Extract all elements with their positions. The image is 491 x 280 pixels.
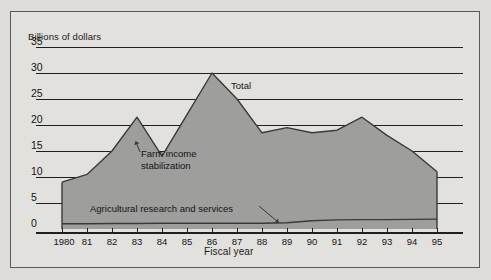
y-tick-label: 25	[31, 87, 43, 99]
y-tick-label: 30	[31, 61, 43, 73]
y-tick-label: 0	[31, 217, 37, 229]
chart-screenshot: Billions of dollars 05101520253035 19808…	[0, 0, 491, 280]
y-tick-label: 10	[31, 165, 43, 177]
y-tick-label: 15	[31, 139, 43, 151]
series-label-farm-income: Farm income stabilization	[141, 148, 196, 171]
series-label-total: Total	[231, 80, 251, 92]
y-tick-label: 35	[31, 35, 43, 47]
y-tick-label: 20	[31, 113, 43, 125]
x-axis-title: Fiscal year	[204, 246, 253, 257]
x-tick-label: 95	[417, 236, 457, 247]
y-tick-label: 5	[31, 191, 37, 203]
farm-income-line-2: stabilization	[141, 160, 191, 171]
series-label-agricultural: Agricultural research and services	[90, 203, 233, 215]
farm-income-line-1: Farm income	[141, 148, 196, 159]
